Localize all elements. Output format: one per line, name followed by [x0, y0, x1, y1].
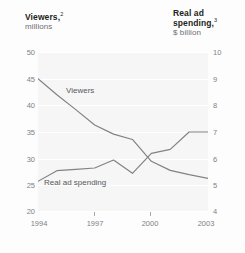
series-lines	[38, 52, 208, 212]
left-tick-30: 30	[17, 155, 35, 164]
plot-area	[38, 52, 208, 212]
left-tick-20: 20	[17, 207, 35, 216]
right-axis-footnote-marker: 3	[214, 17, 217, 23]
right-tick-5: 5	[213, 181, 231, 190]
line-real-ad-spending	[38, 132, 208, 181]
right-axis-title-line1: Real ad	[173, 8, 233, 18]
xtick-1994: 1994	[22, 219, 56, 228]
chart-container: Viewers,2 millions Real ad spending,3 $ …	[0, 0, 245, 253]
left-axis-subtitle: millions	[25, 22, 63, 31]
xtick-2000: 2000	[133, 219, 167, 228]
left-axis-title-main: Viewers,2	[25, 12, 63, 22]
right-tick-7: 7	[213, 128, 231, 137]
left-tick-25: 25	[17, 181, 35, 190]
series-label-real-ad-spending: Real ad spending	[44, 178, 106, 187]
right-tick-4: 4	[213, 207, 231, 216]
left-tick-45: 45	[17, 75, 35, 84]
left-axis-footnote-marker: 2	[60, 11, 63, 17]
right-tick-9: 9	[213, 75, 231, 84]
right-axis-subtitle: $ billion	[173, 28, 233, 37]
right-axis-title: Real ad spending,3 $ billion	[173, 8, 233, 37]
right-axis-title-line2: spending,3	[173, 18, 233, 28]
right-tick-6: 6	[213, 155, 231, 164]
line-viewers	[38, 79, 208, 179]
xtick-2003: 2003	[189, 219, 223, 228]
xtick-mark-1997	[94, 212, 95, 216]
series-label-viewers: Viewers	[66, 86, 94, 95]
left-tick-50: 50	[17, 48, 35, 57]
left-tick-35: 35	[17, 128, 35, 137]
right-tick-8: 8	[213, 101, 231, 110]
xtick-mark-2000	[150, 212, 151, 216]
xtick-1997: 1997	[78, 219, 112, 228]
left-tick-40: 40	[17, 101, 35, 110]
right-tick-10: 10	[213, 48, 231, 57]
left-axis-title: Viewers,2 millions	[25, 12, 63, 31]
